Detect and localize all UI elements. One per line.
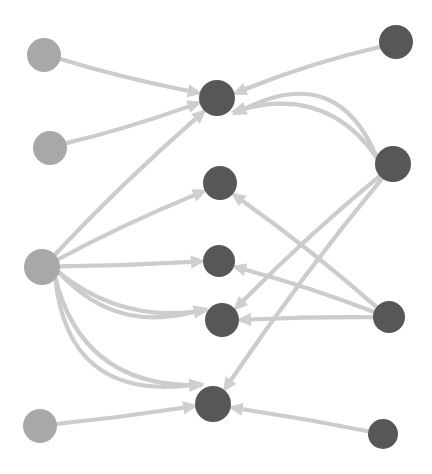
graph-node[interactable] [24, 249, 60, 285]
graph-node[interactable] [203, 245, 235, 277]
graph-node[interactable] [203, 166, 237, 200]
graph-node[interactable] [375, 146, 411, 182]
graph-node[interactable] [27, 38, 61, 72]
graph-edge [58, 272, 194, 318]
graph-diagram [0, 0, 432, 474]
graph-node[interactable] [379, 25, 413, 59]
graph-edge [245, 104, 377, 158]
graph-node[interactable] [199, 80, 235, 116]
node-layer [23, 25, 413, 449]
graph-node[interactable] [195, 386, 231, 422]
graph-edge [243, 409, 370, 431]
graph-canvas [0, 0, 432, 474]
graph-node[interactable] [368, 419, 398, 449]
graph-edge [65, 107, 188, 144]
graph-node[interactable] [373, 301, 405, 333]
graph-edge [55, 278, 189, 386]
graph-edge [243, 201, 378, 308]
graph-node[interactable] [23, 409, 57, 443]
graph-node[interactable] [33, 131, 67, 165]
graph-edge [56, 408, 183, 424]
graph-edge [246, 47, 381, 89]
graph-edge [243, 175, 380, 300]
graph-edge [59, 262, 191, 266]
graph-edge [60, 59, 188, 91]
graph-node[interactable] [205, 303, 239, 337]
graph-edge [251, 317, 374, 319]
